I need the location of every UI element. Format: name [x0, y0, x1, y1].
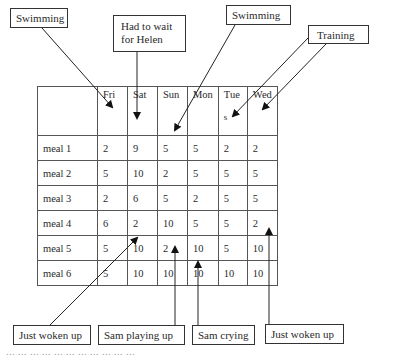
cell: 5 [188, 211, 219, 236]
table-row: meal 3 2 6 5 2 5 5 [38, 186, 278, 211]
table-row: meal 4 6 2 10 5 5 2 [38, 211, 278, 236]
cell: 5 [158, 186, 188, 211]
cell: 5 [158, 136, 188, 161]
header-tue-suffix: s [224, 112, 242, 122]
table-row: meal 1 2 9 5 5 2 2 [38, 136, 278, 161]
callout-label: Training [317, 29, 355, 41]
meal-ratings-table: Fri Sat Sun Mon Tue s Wed meal 1 2 9 5 5… [37, 86, 278, 286]
row-label: meal 2 [38, 161, 98, 186]
callout-label: Just woken up [271, 328, 334, 340]
callout-swimming-fri: Swimming [10, 8, 68, 28]
cell: 2 [218, 136, 247, 161]
cell: 5 [188, 161, 219, 186]
table-row: meal 6 5 10 10 10 10 10 [38, 261, 278, 286]
row-label: meal 4 [38, 211, 98, 236]
cell: 2 [247, 136, 277, 161]
cell: 10 [188, 261, 219, 286]
header-empty [38, 87, 98, 136]
header-sat: Sat [128, 87, 158, 136]
table-row: meal 2 5 10 2 5 5 5 [38, 161, 278, 186]
cell: 2 [158, 236, 188, 261]
cell: 10 [247, 261, 277, 286]
callout-training: Training [308, 25, 369, 44]
table-header-row: Fri Sat Sun Mon Tue s Wed [38, 87, 278, 136]
cell: 5 [218, 236, 247, 261]
cell: 6 [128, 186, 158, 211]
cell: 5 [247, 186, 277, 211]
header-sun: Sun [158, 87, 188, 136]
callout-just-woken-up-wed: Just woken up [265, 324, 344, 344]
row-label: meal 5 [38, 236, 98, 261]
callout-swimming-sun: Swimming [226, 5, 291, 25]
cell: 10 [218, 261, 247, 286]
cell: 10 [158, 211, 188, 236]
cell: 2 [247, 211, 277, 236]
cell: 2 [128, 211, 158, 236]
cell: 9 [128, 136, 158, 161]
cell: 6 [98, 211, 128, 236]
callout-just-woken-up-fri: Just woken up [13, 325, 91, 345]
header-tue: Tue s [218, 87, 247, 136]
callout-label: Sam playing up [104, 329, 173, 341]
header-wed: Wed [247, 87, 277, 136]
callout-label: Swimming [16, 12, 64, 24]
cell: 5 [98, 236, 128, 261]
cell: 5 [98, 261, 128, 286]
callout-sam-playing-up: Sam playing up [98, 325, 185, 345]
cell: 5 [247, 161, 277, 186]
cell: 5 [98, 161, 128, 186]
callout-wait-for-helen: Had to wait for Helen [113, 15, 186, 52]
cell: 10 [128, 236, 158, 261]
header-mon: Mon [188, 87, 219, 136]
cutoff-caption-text: ... ... ... ... ... ... ... ... ... ... … [6, 346, 135, 355]
cell: 10 [128, 161, 158, 186]
callout-label: Just woken up [19, 329, 82, 341]
cell: 5 [218, 211, 247, 236]
row-label: meal 1 [38, 136, 98, 161]
header-tue-label: Tue [224, 89, 240, 100]
cell: 5 [188, 136, 219, 161]
callout-label: Sam crying [198, 329, 248, 341]
cell: 5 [218, 186, 247, 211]
cell: 2 [98, 186, 128, 211]
cell: 2 [188, 186, 219, 211]
cell: 10 [158, 261, 188, 286]
header-fri: Fri [98, 87, 128, 136]
cell: 10 [128, 261, 158, 286]
table-row: meal 5 5 10 2 10 5 10 [38, 236, 278, 261]
cell: 5 [218, 161, 247, 186]
cell: 2 [98, 136, 128, 161]
callout-label: Swimming [232, 9, 280, 21]
cell: 2 [158, 161, 188, 186]
cell: 10 [188, 236, 219, 261]
cell: 10 [247, 236, 277, 261]
callout-sam-crying: Sam crying [192, 325, 255, 345]
row-label: meal 3 [38, 186, 98, 211]
callout-label: Had to wait for Helen [121, 20, 172, 45]
row-label: meal 6 [38, 261, 98, 286]
